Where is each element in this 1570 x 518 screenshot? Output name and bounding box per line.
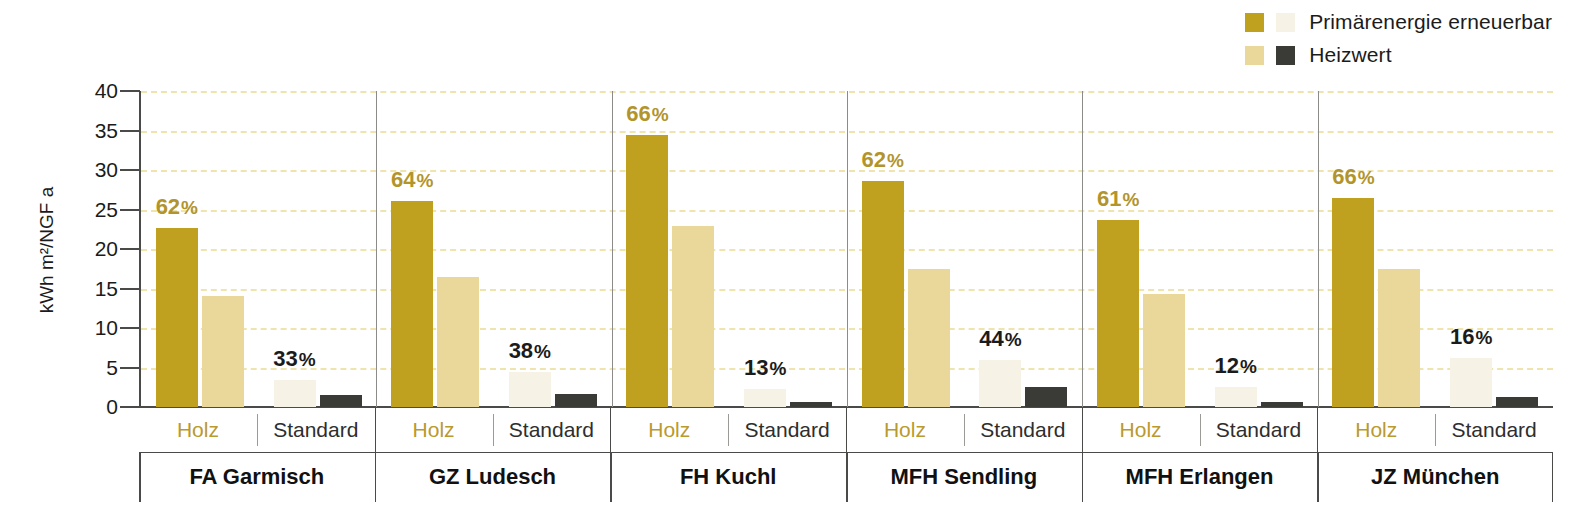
bar-percent-label: 61% bbox=[1097, 186, 1139, 212]
subgroup-label-standard: Standard bbox=[1435, 408, 1553, 452]
bar-groups: 62%33%64%38%66%13%62%44%61%12%66%16% bbox=[141, 91, 1553, 407]
bar bbox=[790, 402, 832, 407]
bar bbox=[672, 226, 714, 407]
bar-subgroup-standard: 16% bbox=[1435, 91, 1553, 407]
bar bbox=[1496, 397, 1538, 407]
bar-percent-label: 38% bbox=[509, 338, 551, 364]
y-axis-tick-mark bbox=[120, 327, 140, 329]
bar-subgroup-holz: 64% bbox=[376, 91, 494, 407]
bar-group: 62%44% bbox=[847, 91, 1082, 407]
bar-percent-label: 66% bbox=[626, 101, 668, 127]
subgroup-label-holz: Holz bbox=[610, 408, 728, 452]
group-label: FA Garmisch bbox=[139, 452, 375, 502]
subgroup-label-standard: Standard bbox=[1200, 408, 1318, 452]
bar-percent-label: 16% bbox=[1450, 324, 1492, 350]
bar-percent-label: 44% bbox=[979, 326, 1021, 352]
group-label-divider bbox=[1082, 452, 1084, 502]
label-divider bbox=[846, 408, 847, 453]
bar-percent-value: 16 bbox=[1450, 324, 1474, 349]
bar-subgroup-standard: 13% bbox=[729, 91, 847, 407]
subgroup-label-holz: Holz bbox=[375, 408, 493, 452]
percent-symbol: % bbox=[1358, 167, 1375, 188]
bar-percent-label: 64% bbox=[391, 167, 433, 193]
bar-percent-label: 13% bbox=[744, 355, 786, 381]
percent-symbol: % bbox=[1122, 189, 1139, 210]
subgroup-label-cell-pair: HolzStandard bbox=[1082, 408, 1318, 452]
label-divider bbox=[257, 414, 258, 446]
y-axis: 0510152025303540 bbox=[88, 86, 140, 408]
subgroup-label-cell-pair: HolzStandard bbox=[610, 408, 846, 452]
label-divider bbox=[1082, 408, 1083, 453]
y-axis-tick-mark bbox=[120, 367, 140, 369]
bar-group: 62%33% bbox=[141, 91, 376, 407]
group-label-divider bbox=[139, 452, 141, 502]
y-axis-tick-label: 20 bbox=[72, 237, 118, 261]
bar-subgroup-standard: 44% bbox=[965, 91, 1083, 407]
group-label: FH Kuchl bbox=[610, 452, 846, 502]
y-axis-tick-mark bbox=[120, 248, 140, 250]
bar bbox=[320, 395, 362, 407]
percent-symbol: % bbox=[769, 358, 786, 379]
label-divider bbox=[1435, 414, 1436, 446]
percent-symbol: % bbox=[652, 104, 669, 125]
group-label-divider bbox=[846, 452, 848, 502]
group-label-band: FA GarmischGZ LudeschFH KuchlMFH Sendlin… bbox=[139, 452, 1553, 502]
bar bbox=[437, 277, 479, 407]
bar-chart: Primärenergie erneuerbar Heizwert kWh m²… bbox=[0, 0, 1570, 518]
label-divider bbox=[728, 414, 729, 446]
bar-percent-label: 12% bbox=[1215, 353, 1257, 379]
subgroup-label-holz: Holz bbox=[139, 408, 257, 452]
group-label: JZ München bbox=[1317, 452, 1553, 502]
y-axis-tick-label: 5 bbox=[72, 356, 118, 380]
bar-percent-label: 66% bbox=[1332, 164, 1374, 190]
bar-percent-value: 33 bbox=[273, 346, 297, 371]
bar bbox=[555, 394, 597, 407]
group-label-divider bbox=[1317, 452, 1319, 502]
bar: 64% bbox=[391, 201, 433, 407]
group-label: MFH Erlangen bbox=[1082, 452, 1318, 502]
subgroup-label-standard: Standard bbox=[728, 408, 846, 452]
y-axis-tick-mark bbox=[120, 130, 140, 132]
subgroup-label-holz: Holz bbox=[1317, 408, 1435, 452]
percent-symbol: % bbox=[416, 170, 433, 191]
label-divider bbox=[1200, 414, 1201, 446]
bar-percent-label: 62% bbox=[156, 194, 198, 220]
bar-group: 61%12% bbox=[1082, 91, 1317, 407]
y-axis-tick-mark bbox=[120, 288, 140, 290]
bar-percent-value: 64 bbox=[391, 167, 415, 192]
percent-symbol: % bbox=[887, 150, 904, 171]
group-label-divider bbox=[375, 452, 377, 502]
bar: 33% bbox=[274, 380, 316, 407]
group-label-divider bbox=[1552, 452, 1554, 502]
bar-percent-value: 66 bbox=[1332, 164, 1356, 189]
bar-group: 66%13% bbox=[612, 91, 847, 407]
bar-percent-value: 61 bbox=[1097, 186, 1121, 211]
bar: 66% bbox=[626, 135, 668, 407]
bar: 62% bbox=[156, 228, 198, 407]
bar-percent-value: 12 bbox=[1215, 353, 1239, 378]
bar-subgroup-standard: 12% bbox=[1200, 91, 1318, 407]
percent-symbol: % bbox=[181, 197, 198, 218]
group-label: GZ Ludesch bbox=[375, 452, 611, 502]
y-axis-tick-label: 35 bbox=[72, 119, 118, 143]
y-axis-tick-label: 40 bbox=[72, 79, 118, 103]
y-axis-tick-label: 15 bbox=[72, 277, 118, 301]
bar: 62% bbox=[862, 181, 904, 407]
bar-percent-value: 13 bbox=[744, 355, 768, 380]
percent-symbol: % bbox=[299, 349, 316, 370]
y-axis-tick-label: 10 bbox=[72, 316, 118, 340]
bar-percent-label: 62% bbox=[862, 147, 904, 173]
bar-subgroup-holz: 62% bbox=[847, 91, 965, 407]
bar-subgroup-holz: 66% bbox=[1318, 91, 1436, 407]
y-axis-tick-mark bbox=[120, 169, 140, 171]
y-axis-tick-mark bbox=[120, 90, 140, 92]
bar-group: 66%16% bbox=[1318, 91, 1553, 407]
percent-symbol: % bbox=[1475, 327, 1492, 348]
subgroup-label-cell-pair: HolzStandard bbox=[139, 408, 375, 452]
y-axis-tick-label: 25 bbox=[72, 198, 118, 222]
bar-subgroup-holz: 62% bbox=[141, 91, 259, 407]
bar-percent-value: 62 bbox=[862, 147, 886, 172]
bar-percent-value: 66 bbox=[626, 101, 650, 126]
bar: 16% bbox=[1450, 358, 1492, 407]
subgroup-label-standard: Standard bbox=[257, 408, 375, 452]
